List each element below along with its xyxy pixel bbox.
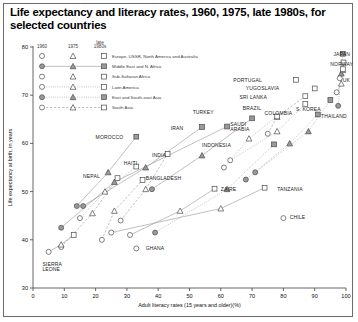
point-chile-circle-1960 [281,216,286,221]
legend-header-1960: 1960 [37,44,48,49]
country-label-india: INDIA [152,152,167,158]
country-label-tanzania: TANZANIA [277,186,303,192]
legend-row-4-label: East and South-east Asia [112,95,162,100]
point-s-korea-circle-1960 [253,170,258,175]
country-label-saudi-arabia-2: ARABIA [230,126,250,132]
point-norway-circle-1960 [337,76,342,81]
y-tick-label: 70 [22,92,28,98]
country-label-s-korea: S. KOREA [296,106,321,112]
country-label-iran: IRAN [171,125,184,131]
point-saudi-arabia-circle-1960 [59,225,64,230]
x-axis-label: Adult literacy rates (15 years and older… [138,302,241,308]
point-india-circle-1960 [118,218,123,223]
point-uk-circle-1960 [334,90,339,95]
point-zaire-square-1980s [212,186,217,191]
point-thailand-circle-1960 [243,177,248,182]
point-tanzania-circle-1960 [109,230,114,235]
y-tick-label: 80 [22,44,28,50]
point-s-korea-triangle-1975 [306,128,312,133]
point-zaire-circle-1960 [128,232,133,237]
country-label-colombia: COLOMBIA [265,110,293,116]
legend-row-2-square-1980s [102,74,107,79]
legend-row-4-square-1980s [102,95,107,100]
point-sierra-leone-triangle-1975 [58,242,64,247]
country-label-chile: CHILE [290,214,306,220]
point-uk-square-1980s [340,67,345,72]
country-label-portugal: PORTUGAL [233,77,262,83]
point-turkey-triangle-1975 [199,153,205,158]
point-thailand-square-1980s [315,112,320,117]
point-portugal-square-1980s [294,77,299,82]
y-tick-label: 30 [22,285,28,291]
point-brazil-triangle-1975 [246,136,252,141]
point-sri-lanka-circle-1960 [265,131,270,136]
legend-row-3-label: Latin America [112,85,139,90]
point-india-triangle-1975 [143,186,149,191]
legend-row-1-square-1980s [102,64,107,69]
legend-row-2-circle-1960 [40,74,45,79]
legend-row-2-label: Sub-Saharan Africa [112,74,151,79]
country-label-sierra-leone-2: LEONE [42,266,60,272]
legend-row-2-triangle-1975 [70,74,76,79]
country-label-nepal: NEPAL [83,173,100,179]
point-haiti-circle-1960 [77,216,82,221]
point-bangladesh-circle-1960 [99,237,104,242]
point-s-korea-square-1980s [328,98,333,103]
x-tick-label: 70 [249,293,255,299]
country-label-uk: UK [343,77,351,83]
legend-row-0-triangle-1975 [70,53,76,58]
country-label-brazil: BRAZIL [243,105,261,111]
point-nepal-triangle-1975 [90,210,96,215]
x-tick-label: 50 [186,293,192,299]
legend-row-5-circle-1960 [40,105,45,110]
x-tick-label: 20 [92,293,98,299]
connector-zaire [130,189,215,235]
point-iran-circle-1960 [81,204,86,209]
point-morocco-circle-1960 [74,204,79,209]
point-sierra-leone-circle-1960 [46,249,51,254]
connector-morocco [77,137,136,206]
legend-row-1-label: Middle East and N. Africa [112,64,162,69]
point-iran-square-1980s [200,125,205,130]
point-brazil-circle-1960 [221,165,226,170]
x-tick-label: 40 [155,293,161,299]
legend-row-1-circle-1960 [40,64,45,69]
y-tick-label: 40 [22,237,28,243]
country-label-sri-lanka: SRI LANKA [240,94,268,100]
x-tick-label: 0 [31,293,34,299]
point-indonesia-square-1980s [272,142,277,147]
country-label-indonesia: INDONESIA [202,142,231,148]
chart-page: Life expectancy and literacy rates, 1960… [0,0,358,322]
point-bangladesh-square-1980s [140,178,145,183]
point-turkey-square-1980s [250,116,255,121]
chart-plot-area: 3040506070800102030405060708090100Adult … [0,0,358,322]
point-nepal-square-1980s [115,176,120,181]
point-ghana-circle-1960 [134,246,139,251]
point-tanzania-square-1980s [262,185,267,190]
point-tanzania-triangle-1975 [218,206,224,211]
connector-nepal [61,178,117,247]
x-tick-label: 90 [312,293,318,299]
y-tick-label: 60 [22,140,28,146]
x-tick-label: 30 [124,293,130,299]
x-tick-label: 80 [280,293,286,299]
connector-thailand [246,114,318,179]
connector-tanzania [111,188,264,233]
x-tick-label: 60 [218,293,224,299]
legend-row-3-circle-1960 [40,84,45,89]
legend-row-0-circle-1960 [40,54,45,59]
point-saudi-arabia-square-1980s [225,124,230,129]
point-morocco-square-1980s [134,134,139,139]
country-label-norway: NORWAY [330,61,353,67]
country-label-haiti: HAITI [124,160,138,166]
country-label-bangladesh: BANGLADESH [146,175,182,181]
point-zaire-triangle-1975 [177,208,183,213]
country-label-thailand: THAILAND [321,113,347,119]
country-label-zaire: ZAIRE [221,186,237,192]
point-bangladesh-triangle-1975 [111,208,117,213]
legend-row-5-square-1980s [102,105,107,110]
country-label-turkey: TURKEY [193,109,215,115]
legend-row-5-label: South Asia [112,105,134,110]
legend-header-1980s: 1980s [94,44,107,49]
point-indonesia-circle-1960 [153,230,158,235]
